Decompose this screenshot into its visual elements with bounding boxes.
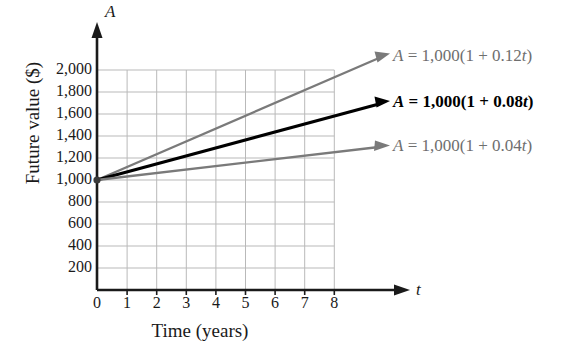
eq-equals: = bbox=[408, 136, 418, 155]
y-axis bbox=[92, 22, 103, 290]
x-tick-label: 6 bbox=[265, 294, 285, 312]
series-label-008: A = 1,000(1 + 0.08t) bbox=[393, 92, 533, 112]
eq-body: 1,000(1 + 0.12 bbox=[421, 46, 521, 65]
x-axis-title: Time (years) bbox=[95, 320, 305, 342]
eq-var: A bbox=[393, 136, 403, 155]
series-label-012: A = 1,000(1 + 0.12t) bbox=[393, 46, 532, 66]
origin-point-marker bbox=[93, 176, 100, 183]
eq-equals: = bbox=[408, 46, 418, 65]
x-axis-variable-label: t bbox=[416, 280, 421, 300]
eq-body: 1,000(1 + 0.04 bbox=[421, 136, 521, 155]
eq-equals: = bbox=[409, 92, 419, 111]
y-axis-title: Future value ($) bbox=[22, 28, 44, 218]
eq-close: ) bbox=[528, 92, 534, 111]
series-line-008 bbox=[97, 97, 390, 181]
x-tick-label: 4 bbox=[206, 294, 226, 312]
x-tick-label: 5 bbox=[236, 294, 256, 312]
eq-close: ) bbox=[526, 136, 532, 155]
x-tick-label: 0 bbox=[87, 294, 107, 312]
series-label-004: A = 1,000(1 + 0.04t) bbox=[393, 136, 532, 156]
series-line-012 bbox=[97, 52, 390, 181]
x-tick-label: 3 bbox=[176, 294, 196, 312]
x-tick-label: 2 bbox=[147, 294, 167, 312]
eq-var: A bbox=[393, 92, 404, 111]
eq-close: ) bbox=[526, 46, 532, 65]
eq-var: A bbox=[393, 46, 403, 65]
x-tick-label: 7 bbox=[295, 294, 315, 312]
x-tick-label: 1 bbox=[117, 294, 137, 312]
y-axis-variable-label: A bbox=[105, 2, 115, 22]
chart-figure: A t Future value ($) Time (years) 2,000 … bbox=[0, 0, 581, 358]
eq-body: 1,000(1 + 0.08 bbox=[423, 92, 523, 111]
x-tick-label: 8 bbox=[324, 294, 344, 312]
